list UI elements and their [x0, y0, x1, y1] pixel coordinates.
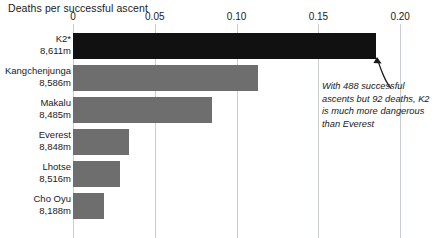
- bar: [73, 65, 258, 91]
- x-axis-tick-labels: 00.050.100.150.20: [0, 0, 439, 24]
- x-tick-label: 0: [70, 11, 76, 22]
- peak-name: Kangchenjunga: [0, 65, 71, 77]
- bar-row: Lhotse8,516m: [0, 161, 439, 193]
- bar: [73, 193, 104, 219]
- category-label: K2*8,611m: [0, 33, 71, 57]
- peak-elevation: 8,188m: [0, 205, 71, 217]
- peak-name: Lhotse: [0, 161, 71, 173]
- chart-annotation: With 488 successful ascents but 92 death…: [322, 80, 438, 130]
- peak-elevation: 8,586m: [0, 77, 71, 89]
- peak-elevation: 8,611m: [0, 45, 71, 57]
- peak-elevation: 8,485m: [0, 109, 71, 121]
- bar-row: Cho Oyu8,188m: [0, 193, 439, 225]
- peak-name: Cho Oyu: [0, 193, 71, 205]
- bar: [73, 161, 120, 187]
- x-tick-label: 0.15: [309, 11, 328, 22]
- bar: [73, 97, 212, 123]
- peak-elevation: 8,516m: [0, 173, 71, 185]
- peak-name: Everest: [0, 129, 71, 141]
- x-tick-label: 0.20: [390, 11, 409, 22]
- category-label: Everest8,848m: [0, 129, 71, 153]
- x-tick-label: 0.10: [227, 11, 246, 22]
- peak-name: K2*: [0, 33, 71, 45]
- category-label: Kangchenjunga8,586m: [0, 65, 71, 89]
- x-tick-label: 0.05: [145, 11, 164, 22]
- category-label: Makalu8,485m: [0, 97, 71, 121]
- category-label: Lhotse8,516m: [0, 161, 71, 185]
- bar: [73, 33, 376, 59]
- peak-name: Makalu: [0, 97, 71, 109]
- peak-elevation: 8,848m: [0, 141, 71, 153]
- category-label: Cho Oyu8,188m: [0, 193, 71, 217]
- bar-row: Everest8,848m: [0, 129, 439, 161]
- bar-chart: Deaths per successful ascent 00.050.100.…: [0, 0, 439, 238]
- bar: [73, 129, 129, 155]
